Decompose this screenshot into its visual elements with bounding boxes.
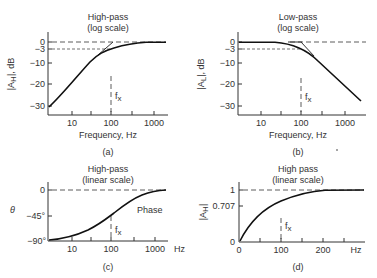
panel-c-ytick-0: 0 (40, 185, 45, 195)
panel-d-xtick-0: 0 (236, 245, 241, 255)
stray-dot (336, 149, 338, 151)
filter-response-figure: High-pass (log scale) 0 −3 −10 −20 −30 1… (0, 0, 377, 278)
panel-a-fx-label: fx (115, 91, 122, 103)
panel-a-ytick-20: −20 (30, 79, 45, 89)
panel-b-curve (239, 42, 361, 101)
panel-a-title: High-pass (88, 12, 129, 22)
panel-a-ytick-10: −10 (30, 58, 45, 68)
panel-d-highpass-linear: High pass (linear scale) 1 0.707 0 |AH| … (198, 164, 365, 272)
panel-a-caption: (a) (103, 147, 114, 157)
panel-b-caption: (b) (293, 147, 304, 157)
panel-d-ytick-1: 1 (230, 185, 235, 195)
panel-c-ylabel: θ (10, 205, 15, 215)
panel-b-ytick-20: −20 (220, 79, 235, 89)
panel-a-xtick-100: 100 (103, 118, 118, 128)
panel-d-xtick-100: 100 (273, 245, 288, 255)
panel-d-ytick-0707: 0.707 (212, 201, 235, 211)
panel-a-highpass-log: High-pass (log scale) 0 −3 −10 −20 −30 1… (6, 12, 168, 140)
panel-c-caption: (c) (103, 262, 114, 272)
panel-c-fx-label: fx (115, 225, 122, 237)
panel-b-xtick-10: 10 (256, 118, 266, 128)
panel-d-ylabel: |AH| (198, 204, 210, 220)
panel-c-xunit: Hz (174, 244, 185, 254)
panel-a-xtick-10: 10 (67, 118, 77, 128)
panel-d-xunit: Hz (351, 245, 362, 255)
panel-c-title: High-pass (88, 164, 129, 174)
panel-a-ytick-3: −3 (35, 44, 45, 54)
panel-d-fx-label: fx (285, 221, 292, 233)
panel-d-subtitle: (linear scale) (272, 175, 324, 185)
panel-c-phase-label: Phase (137, 205, 163, 215)
panel-c-ytick-90: −90° (27, 236, 46, 246)
panel-b-fx-label: fx (305, 92, 312, 104)
panel-b-ytick-10: −10 (220, 58, 235, 68)
panel-b-title: Low-pass (279, 12, 318, 22)
panel-b-xtick-1000: 1000 (335, 118, 355, 128)
panel-c-xtick-10: 10 (67, 244, 77, 254)
panel-d-title: High pass (278, 164, 319, 174)
panel-a-subtitle: (log scale) (87, 23, 129, 33)
panel-d-caption: (d) (293, 262, 304, 272)
panel-a-ytick-30: −30 (30, 101, 45, 111)
panel-b-xtick-100: 100 (293, 118, 308, 128)
panel-c-phase: High-pass (linear scale) 0 −45° −90° θ 1… (10, 164, 185, 272)
panel-c-ytick-45: −45° (26, 211, 45, 221)
panel-a-curve (49, 42, 166, 107)
panel-b-ytick-3: −3 (225, 44, 235, 54)
panel-a-xlabel: Frequency, Hz (79, 130, 137, 140)
panel-d-curve (240, 190, 364, 241)
panel-c-xtick-100: 100 (103, 244, 118, 254)
panel-c-curve (49, 190, 166, 240)
panel-d-ytick-0: 0 (230, 237, 235, 247)
panel-b-lowpass-log: Low-pass (log scale) 0 −3 −10 −20 −30 10… (196, 12, 366, 140)
panel-b-xlabel: Frequency, Hz (269, 130, 327, 140)
panel-d-xtick-200: 200 (315, 245, 330, 255)
panel-b-ylabel: |AL|, dB (196, 58, 208, 89)
panel-c-xtick-1000: 1000 (145, 244, 165, 254)
panel-b-subtitle: (log scale) (277, 23, 319, 33)
panel-c-subtitle: (linear scale) (82, 175, 134, 185)
panel-a-xtick-1000: 1000 (144, 118, 164, 128)
panel-a-ylabel: |AH|, dB (6, 58, 18, 90)
panel-b-ytick-30: −30 (220, 101, 235, 111)
